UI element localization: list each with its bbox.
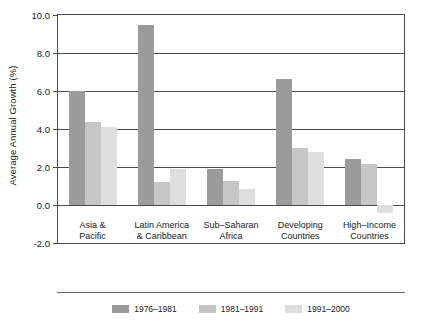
- bar: [345, 159, 361, 205]
- x-category-label-line: Countries: [335, 231, 404, 242]
- legend-swatch-icon: [112, 305, 129, 313]
- legend-item[interactable]: 1976–1981: [112, 304, 177, 314]
- bar: [85, 122, 101, 205]
- x-category-label-line: High–Income: [335, 220, 404, 231]
- x-category-label-line: Pacific: [58, 231, 127, 242]
- legend-item[interactable]: 1981–1991: [199, 304, 264, 314]
- y-tick-label-4.0: 4.0: [10, 124, 50, 135]
- x-category-label: Sub–SaharanAfrica: [196, 220, 265, 242]
- bar: [361, 164, 377, 205]
- legend-divider: [57, 292, 405, 293]
- chart-legend: 1976–19811981–19911991–2000: [57, 300, 405, 318]
- bar: [154, 182, 170, 205]
- y-tick-label-0.0: 0.0: [10, 200, 50, 211]
- bar: [223, 181, 239, 205]
- legend-item-label: 1981–1991: [221, 304, 264, 314]
- plot-area: [57, 14, 405, 244]
- bar: [276, 79, 292, 205]
- x-category-label-line: Sub–Saharan: [196, 220, 265, 231]
- plot-inner: [58, 15, 404, 243]
- bar: [292, 148, 308, 205]
- x-category-label-line: & Caribbean: [127, 231, 196, 242]
- bar: [308, 152, 324, 205]
- bar: [101, 127, 117, 205]
- bar: [239, 189, 255, 205]
- gridline-6.0: [58, 91, 404, 92]
- x-category-label: High–IncomeCountries: [335, 220, 404, 242]
- legend-item-label: 1991–2000: [307, 304, 350, 314]
- legend-swatch-icon: [285, 305, 302, 313]
- y-tick-label-6.0: 6.0: [10, 86, 50, 97]
- legend-item-label: 1976–1981: [134, 304, 177, 314]
- x-category-label-line: Countries: [266, 231, 335, 242]
- legend-item[interactable]: 1991–2000: [285, 304, 350, 314]
- y-tick-label-8.0: 8.0: [10, 48, 50, 59]
- gridline-0.0: [58, 205, 404, 206]
- gridline-8.0: [58, 53, 404, 54]
- x-category-label-line: Asia &: [58, 220, 127, 231]
- bar: [69, 91, 85, 205]
- x-category-label: DevelopingCountries: [266, 220, 335, 242]
- bar: [138, 25, 154, 206]
- bar-chart-figure: Average Annual Growth (%) -2.00.02.04.06…: [0, 0, 432, 327]
- y-tick-label-10.0: 10.0: [10, 10, 50, 21]
- x-category-label-line: Africa: [196, 231, 265, 242]
- y-tick-label-2.0: 2.0: [10, 162, 50, 173]
- y-tick-label--2.0: -2.0: [10, 238, 50, 249]
- bar: [207, 169, 223, 205]
- bar: [170, 169, 186, 205]
- x-category-label: Latin America& Caribbean: [127, 220, 196, 242]
- x-category-label-line: Latin America: [127, 220, 196, 231]
- x-category-label: Asia &Pacific: [58, 220, 127, 242]
- bar: [377, 205, 393, 213]
- x-category-label-line: Developing: [266, 220, 335, 231]
- legend-swatch-icon: [199, 305, 216, 313]
